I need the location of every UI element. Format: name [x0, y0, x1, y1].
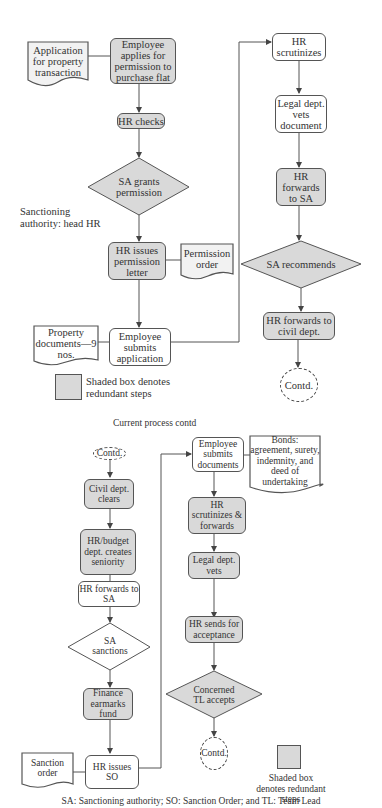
step-hr-forwards-sa-2: HR forwards to SA: [78, 581, 140, 607]
step-legal-vets: Legal dept. vets document: [275, 95, 327, 133]
legend-text: Shaded box denotes redundant steps: [86, 376, 186, 399]
connector-contd-out: Contd.: [280, 368, 318, 402]
connector-contd-out-2: Contd.: [200, 737, 228, 770]
step-hr-scrutinizes: HR scrutinizes: [272, 33, 326, 61]
doc-sanction-order: Sanction order: [22, 753, 73, 783]
step-hr-issues-so: HR issues SO: [85, 755, 139, 789]
step-hr-budget-seniority: HR/budget dept. creates seniority: [80, 529, 136, 575]
step-hr-forwards-sa: HR forwards to SA: [276, 168, 326, 206]
note-sanctioning-authority: Sanctioning authority: head HR: [20, 206, 110, 229]
step-hr-issues-letter: HR issues permission letter: [108, 242, 166, 280]
step-employee-submits-docs: Employee submits documents: [192, 437, 244, 472]
step-finance-earmarks: Finance earmarks fund: [83, 688, 133, 720]
legend-shaded-swatch: [55, 374, 82, 400]
step-employee-applies: Employee applies for permission to purch…: [110, 38, 176, 84]
decision-sa-recommends: SA recommends: [263, 250, 339, 278]
step-employee-submits: Employee submits application: [109, 328, 171, 366]
decision-sa-sanctions: SA sanctions: [88, 633, 132, 659]
step-hr-forwards-civil: HR forwards to civil dept.: [263, 312, 335, 340]
section-title: Current process contd: [113, 418, 196, 429]
step-civil-clears: Civil dept. clears: [84, 479, 134, 509]
doc-application: Application for property transaction: [28, 42, 88, 80]
legend-shaded-swatch-2: [277, 745, 301, 769]
doc-permission-order: Permission order: [181, 244, 233, 274]
decision-sa-grants: SA grants permission: [98, 170, 180, 204]
footnote: SA: Sanctioning authority; SO: Sanction …: [0, 796, 382, 807]
step-hr-sends-acceptance: HR sends for acceptance: [185, 616, 243, 643]
step-hr-scrutinizes-forwards: HR scrutinizes & forwards: [188, 497, 246, 534]
connector-contd-in: Contd.: [93, 447, 126, 460]
doc-property-documents: Property documents—9 nos.: [34, 326, 98, 360]
decision-tl-accepts: Concerned TL accepts: [188, 682, 240, 708]
step-hr-checks: HR checks: [117, 113, 165, 129]
step-legal-vets-2: Legal dept. vets: [188, 552, 240, 579]
doc-bonds: Bonds: agreement, surety, indemnity, and…: [250, 436, 320, 486]
